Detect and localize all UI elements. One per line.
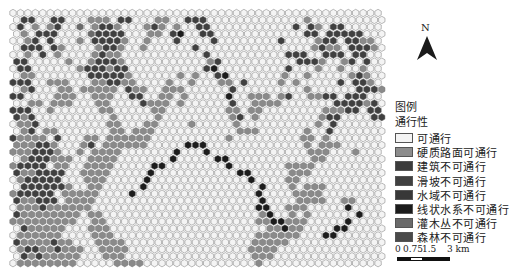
scale-tick: 0 — [395, 244, 401, 254]
legend-title: 图例 — [395, 101, 511, 116]
legend-item: 灌木丛不可通行 — [395, 216, 511, 230]
legend-item: 滑坡不可通行 — [395, 174, 511, 188]
north-arrow: N — [412, 22, 442, 68]
scale-segment — [397, 257, 410, 261]
legend-swatch — [395, 133, 413, 143]
scale-tick: 0.75 — [403, 244, 423, 254]
scale-bar: 0 0.75 1.5 3 km — [395, 244, 505, 266]
legend-items: 可通行 硬质路面可通行 建筑不可通行 滑坡不可通行 水域不可通行 线状水系不可通… — [395, 131, 511, 245]
legend-subtitle: 通行性 — [395, 116, 511, 131]
legend-swatch — [395, 176, 413, 186]
legend-swatch — [395, 147, 413, 157]
legend-item: 建筑不可通行 — [395, 159, 511, 173]
north-arrow-icon — [412, 22, 442, 68]
legend-swatch — [395, 161, 413, 171]
legend-label: 森林不可通行 — [417, 229, 486, 245]
legend-item: 可通行 — [395, 131, 511, 145]
legend: 图例 通行性 可通行 硬质路面可通行 建筑不可通行 滑坡不可通行 水域不可通行 … — [395, 101, 511, 245]
legend-swatch — [395, 190, 413, 200]
legend-item: 硬质路面可通行 — [395, 145, 511, 159]
scale-segment — [410, 257, 423, 261]
legend-swatch — [395, 232, 413, 242]
scale-tick: 3 km — [447, 244, 470, 254]
scale-tick: 1.5 — [422, 244, 436, 254]
hex-grid-map — [0, 0, 390, 279]
legend-item: 森林不可通行 — [395, 230, 511, 244]
legend-swatch — [395, 204, 413, 214]
legend-item: 水域不可通行 — [395, 188, 511, 202]
legend-swatch — [395, 218, 413, 228]
scale-segment — [423, 257, 450, 261]
legend-item: 线状水系不可通行 — [395, 202, 511, 216]
